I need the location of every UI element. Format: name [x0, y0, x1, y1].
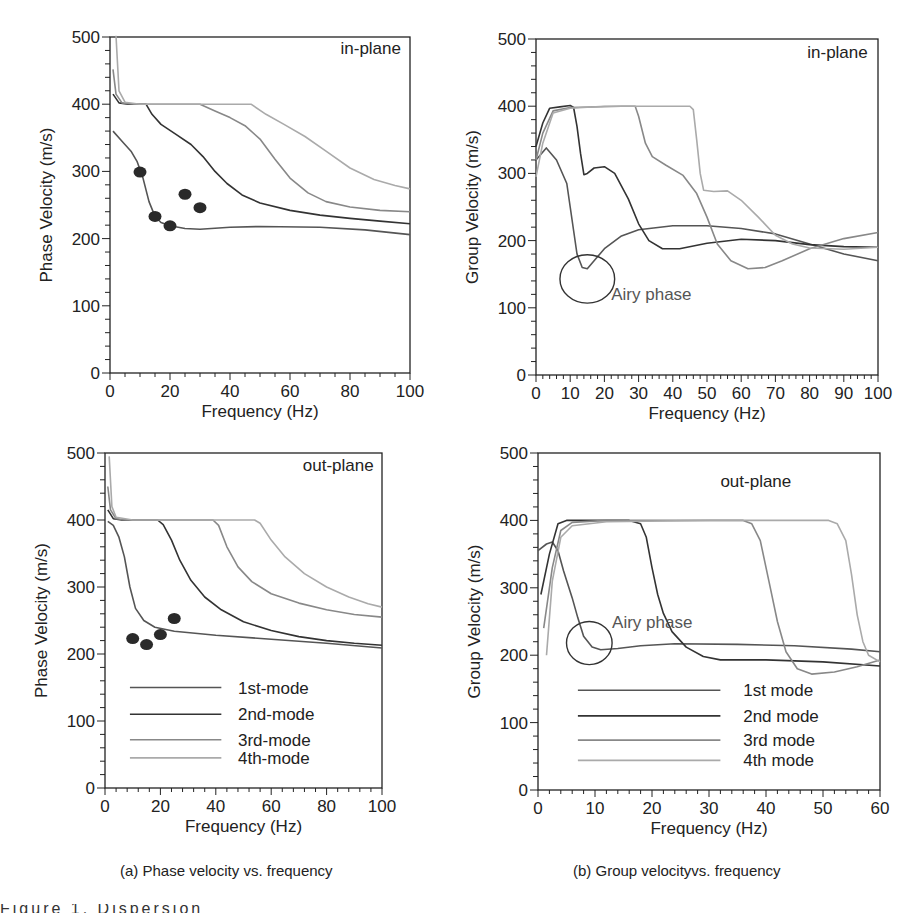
x-tick-label: 50 [814, 799, 833, 818]
y-tick-label: 300 [498, 164, 526, 183]
chart-group-in-plane: 01002003004005000102030405060708090100Fr… [463, 30, 892, 423]
legend-label: 4th mode [743, 751, 814, 770]
x-tick-label: 80 [341, 382, 360, 401]
x-tick-label: 10 [586, 799, 605, 818]
y-tick-label: 100 [67, 712, 95, 731]
x-tick-label: 60 [281, 382, 300, 401]
plot-frame [110, 37, 410, 373]
x-tick-label: 100 [396, 382, 424, 401]
y-tick-label: 400 [67, 511, 95, 530]
x-axis-label: Frequency (Hz) [650, 819, 767, 838]
y-tick-label: 100 [498, 299, 526, 318]
y-tick-label: 500 [500, 444, 528, 463]
x-tick-label: 40 [757, 799, 776, 818]
x-tick-label: 20 [151, 797, 170, 816]
y-tick-label: 100 [72, 297, 100, 316]
x-tick-label: 60 [262, 797, 281, 816]
y-tick-label: 400 [72, 95, 100, 114]
x-tick-label: 30 [700, 799, 719, 818]
y-tick-label: 500 [498, 30, 526, 49]
legend-label: 4th-mode [238, 749, 310, 768]
legend-label: 2nd-mode [238, 705, 315, 724]
y-axis-label: Phase Velocity (m/s) [32, 543, 51, 698]
series-line-3rd-mode [113, 69, 410, 211]
figure-caption-cropped: Figure 1. Dispersion characteristics [0, 904, 260, 913]
x-axis-label: Frequency (Hz) [648, 404, 765, 423]
series-line-3rd-mode [544, 520, 880, 674]
chart-group-out-plane: 01002003004005000102030405060Frequency (… [465, 444, 889, 838]
measured-data-point [168, 613, 181, 624]
x-tick-label: 0 [100, 797, 109, 816]
x-tick-label: 40 [206, 797, 225, 816]
y-tick-label: 300 [67, 578, 95, 597]
series-line-4th-mode [109, 456, 382, 607]
series-line-1st-mode [536, 148, 878, 269]
chart-phase-out-plane: 0100200300400500020406080100Frequency (H… [32, 444, 396, 836]
x-tick-label: 20 [643, 799, 662, 818]
y-tick-label: 500 [67, 444, 95, 463]
y-axis-label: Phase Velocity (m/s) [37, 128, 56, 283]
panel-title: in-plane [807, 43, 868, 62]
x-tick-label: 40 [221, 382, 240, 401]
measured-data-point [149, 211, 162, 222]
x-tick-label: 0 [105, 382, 114, 401]
x-tick-label: 80 [317, 797, 336, 816]
x-tick-label: 80 [800, 384, 819, 403]
chart-phase-in-plane: 0100200300400500020406080100Frequency (H… [37, 28, 424, 421]
x-tick-label: 20 [595, 384, 614, 403]
series-line-1st-mode [538, 542, 880, 652]
series-line-3rd-mode [108, 487, 382, 618]
legend-label: 1st-mode [238, 679, 309, 698]
legend-label: 2nd mode [743, 707, 819, 726]
y-axis-label: Group Velocity (m/s) [463, 130, 482, 284]
measured-data-point [164, 220, 177, 231]
y-tick-label: 200 [67, 645, 95, 664]
legend-label: 1st mode [743, 681, 813, 700]
measured-data-point [126, 633, 139, 644]
y-tick-label: 0 [519, 781, 528, 800]
y-tick-label: 300 [500, 579, 528, 598]
y-tick-label: 200 [72, 230, 100, 249]
x-axis-label: Frequency (Hz) [201, 402, 318, 421]
airy-phase-circle [560, 255, 615, 303]
y-tick-label: 100 [500, 714, 528, 733]
legend-label: 3rd mode [743, 731, 815, 750]
x-tick-label: 60 [732, 384, 751, 403]
x-axis-label: Frequency (Hz) [185, 817, 302, 836]
x-tick-label: 0 [533, 799, 542, 818]
x-tick-label: 30 [629, 384, 648, 403]
y-tick-label: 400 [498, 97, 526, 116]
measured-data-point [134, 167, 147, 178]
x-tick-label: 20 [161, 382, 180, 401]
panel-title: out-plane [303, 456, 374, 475]
x-tick-label: 0 [531, 384, 540, 403]
legend-label: 3rd-mode [238, 731, 311, 750]
y-tick-label: 0 [517, 366, 526, 385]
series-line-2nd-mode [113, 94, 410, 224]
panel-title: in-plane [341, 39, 402, 58]
y-tick-label: 500 [72, 28, 100, 47]
series-line-4th-mode [547, 520, 881, 662]
y-tick-label: 200 [500, 646, 528, 665]
panel-title: out-plane [720, 472, 791, 491]
airy-phase-label: Airy phase [611, 285, 691, 304]
measured-data-point [179, 189, 192, 200]
y-tick-label: 0 [86, 779, 95, 798]
y-tick-label: 300 [72, 162, 100, 181]
x-tick-label: 70 [766, 384, 785, 403]
measured-data-point [154, 629, 167, 640]
dispersion-figure: 0100200300400500020406080100Frequency (H… [0, 0, 915, 913]
x-tick-label: 60 [871, 799, 890, 818]
series-line-2nd-mode [108, 510, 382, 645]
series-line-2nd-mode [536, 106, 878, 249]
y-tick-label: 400 [500, 511, 528, 530]
series-line-4th-mode [116, 36, 410, 189]
plot-frame [536, 39, 878, 375]
x-tick-label: 50 [698, 384, 717, 403]
series-line-1st-mode [108, 521, 382, 648]
x-tick-label: 90 [834, 384, 853, 403]
x-tick-label: 100 [864, 384, 892, 403]
y-tick-label: 200 [498, 232, 526, 251]
caption-a: (a) Phase velocity vs. frequency [120, 862, 333, 879]
series-line-4th-mode [536, 106, 878, 249]
